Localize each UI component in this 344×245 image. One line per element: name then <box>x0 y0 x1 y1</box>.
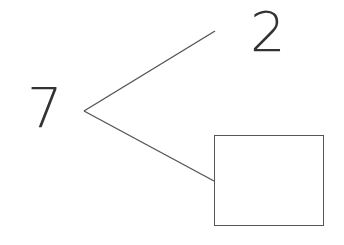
answer-box[interactable] <box>214 135 324 226</box>
whole-number: 7 <box>27 80 63 136</box>
part-number-1: 2 <box>250 4 286 60</box>
line-to-part-2 <box>84 111 214 181</box>
line-to-part-1 <box>84 31 215 111</box>
